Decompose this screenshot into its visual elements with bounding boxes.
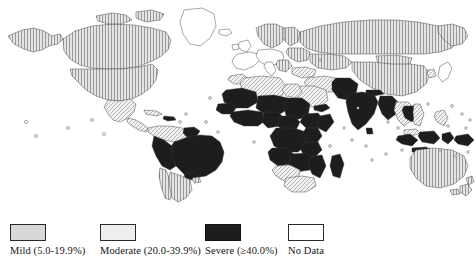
region-ireland [232,44,239,50]
legend-label-moderate: Moderate (20.0-39.9%) [100,245,201,256]
world-map-svg [0,0,476,215]
legend-label-mild: Mild (5.0-19.9%) [10,245,85,256]
legend-swatch-severe [205,224,241,241]
map-legend: Mild (5.0-19.9%) Moderate (20.0-39.9%) S… [0,224,476,269]
legend-entry-nodata: No Data [288,224,324,256]
region-tasmania [450,189,460,195]
legend-entry-severe: Severe (≥40.0%) [205,224,278,256]
legend-label-severe: Severe (≥40.0%) [205,245,278,256]
legend-swatch-mild [10,224,46,241]
region-sri-lanka [366,128,373,134]
legend-entry-moderate: Moderate (20.0-39.9%) [100,224,201,256]
legend-entry-mild: Mild (5.0-19.9%) [10,224,85,256]
legend-swatch-nodata [288,224,324,241]
world-map-figure [0,0,476,215]
legend-label-nodata: No Data [288,245,324,256]
legend-swatch-moderate [100,224,136,241]
